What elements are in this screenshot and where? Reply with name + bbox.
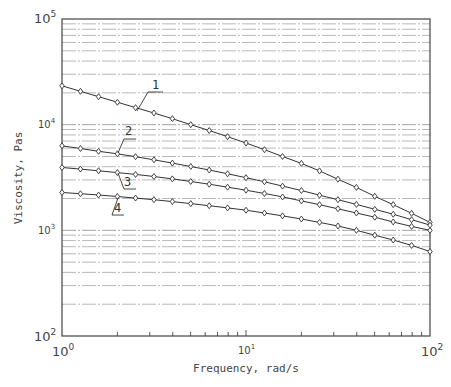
data-point-marker (96, 168, 100, 174)
data-point-marker (60, 165, 64, 171)
data-point-marker (373, 214, 377, 220)
x-axis-ticks (117, 330, 421, 336)
data-point-marker (336, 206, 340, 212)
data-point-marker (354, 227, 358, 233)
data-point-marker (189, 201, 193, 207)
data-point-marker (60, 190, 64, 196)
data-point-marker (409, 210, 413, 216)
data-point-marker (336, 176, 340, 182)
curve-label-2: 2 (118, 124, 136, 153)
data-point-marker (133, 154, 137, 160)
data-point-marker (317, 219, 321, 225)
data-point-marker (280, 213, 284, 219)
x-tick-1e2: 102 (421, 342, 443, 359)
data-point-marker (244, 207, 248, 213)
data-point-marker (299, 160, 303, 166)
data-point-marker (170, 176, 174, 182)
data-point-marker (280, 183, 284, 189)
data-point-marker (354, 210, 358, 216)
data-point-marker (152, 157, 156, 163)
data-point-marker (78, 191, 82, 197)
y-tick-1e5: 105 (34, 9, 56, 26)
data-point-marker (133, 105, 137, 111)
data-point-marker (207, 203, 211, 209)
data-curves (60, 83, 432, 255)
data-point-marker (170, 160, 174, 166)
data-point-marker (373, 206, 377, 212)
data-point-marker (60, 83, 64, 89)
data-point-marker (207, 181, 211, 187)
data-point-marker (170, 116, 174, 122)
svg-text:1: 1 (152, 78, 159, 92)
gridlines (62, 24, 430, 304)
x-tick-1e1: 101 (238, 343, 255, 356)
data-point-marker (189, 163, 193, 169)
data-point-marker (244, 187, 248, 193)
data-point-marker (373, 232, 377, 238)
data-point-marker (170, 199, 174, 205)
data-point-marker (317, 192, 321, 198)
data-point-marker (225, 205, 229, 211)
curve-4 (60, 190, 432, 255)
data-point-marker (336, 223, 340, 229)
data-point-marker (262, 191, 266, 197)
data-point-marker (152, 197, 156, 203)
data-point-marker (317, 168, 321, 174)
data-point-marker (391, 211, 395, 217)
data-point-marker (133, 195, 137, 201)
y-tick-1e2: 102 (34, 327, 56, 344)
data-point-marker (299, 188, 303, 194)
data-point-marker (354, 201, 358, 207)
data-point-marker (225, 171, 229, 177)
curve-label-4: 4 (112, 198, 124, 215)
data-point-marker (280, 153, 284, 159)
x-axis-title: Frequency, rad/s (193, 362, 299, 375)
curve-label-1: 1 (137, 78, 163, 111)
data-point-marker (207, 128, 211, 134)
data-point-marker (262, 210, 266, 216)
data-point-marker (189, 122, 193, 128)
data-point-marker (409, 223, 413, 229)
y-tick-1e4: 104 (38, 117, 56, 130)
data-point-marker (152, 110, 156, 116)
viscosity-chart: 105 104 103 102 100 101 102 Frequency, r… (0, 0, 451, 387)
data-point-marker (354, 184, 358, 190)
data-point-marker (96, 192, 100, 198)
svg-text:3: 3 (124, 175, 131, 189)
data-point-marker (115, 99, 119, 105)
data-point-marker (409, 217, 413, 223)
svg-text:4: 4 (114, 201, 121, 215)
data-point-marker (280, 194, 284, 200)
data-point-marker (391, 202, 395, 208)
data-point-marker (152, 174, 156, 180)
data-point-marker (299, 216, 303, 222)
data-point-marker (96, 94, 100, 100)
svg-text:2: 2 (125, 124, 132, 138)
data-point-marker (225, 184, 229, 190)
data-point-marker (317, 202, 321, 208)
data-point-marker (133, 171, 137, 177)
data-point-marker (409, 242, 413, 248)
data-point-marker (391, 237, 395, 243)
data-point-marker (78, 88, 82, 94)
data-point-marker (262, 147, 266, 153)
data-point-marker (189, 178, 193, 184)
curve-label-3: 3 (118, 173, 136, 189)
y-tick-1e3: 103 (38, 223, 55, 236)
x-tick-1e0: 100 (52, 342, 75, 359)
data-point-marker (336, 197, 340, 203)
data-point-marker (391, 219, 395, 225)
data-point-marker (428, 227, 432, 233)
y-axis-title: Viscosity, Pas (12, 132, 25, 225)
data-point-marker (207, 167, 211, 173)
data-point-marker (78, 145, 82, 151)
data-point-marker (96, 148, 100, 154)
